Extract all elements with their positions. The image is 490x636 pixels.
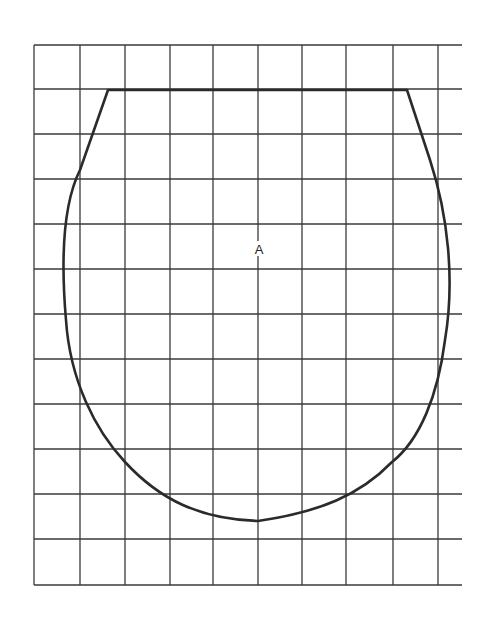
- grid: [34, 45, 462, 585]
- piece-label: A: [255, 242, 264, 257]
- pattern-piece-outline: [64, 90, 450, 521]
- pattern-diagram: A: [0, 0, 490, 636]
